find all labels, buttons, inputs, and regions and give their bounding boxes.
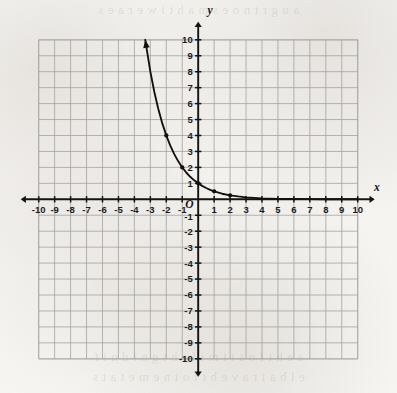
- x-tick-label: 4: [259, 204, 265, 215]
- y-tick-label: -10: [179, 353, 193, 364]
- x-tick-label: 3: [243, 204, 248, 215]
- y-tick-label: -5: [184, 273, 193, 284]
- x-tick-label: 9: [339, 204, 344, 215]
- y-tick-label: 2: [187, 162, 192, 173]
- y-tick-label: 3: [187, 146, 192, 157]
- x-tick-label: -5: [114, 204, 123, 215]
- axis-arrowhead: [195, 372, 202, 377]
- y-tick-label: 10: [182, 34, 193, 45]
- coordinate-plane: -10-9-8-7-6-5-4-3-2-11234567891010987654…: [0, 0, 397, 393]
- x-tick-label: 7: [307, 204, 312, 215]
- plotted-point-dot: [180, 165, 184, 169]
- x-tick-label: 6: [291, 204, 296, 215]
- x-tick-label: -8: [66, 204, 74, 215]
- x-tick-label: 10: [352, 204, 363, 215]
- y-tick-label: -2: [184, 226, 192, 237]
- y-tick-label: -3: [184, 242, 192, 253]
- x-tick-label: 5: [275, 204, 281, 215]
- origin-label: O: [185, 198, 193, 210]
- y-tick-label: 6: [187, 98, 192, 109]
- y-tick-label: 5: [187, 114, 193, 125]
- axis-arrowhead: [370, 196, 375, 203]
- plotted-point-dot: [212, 189, 216, 193]
- y-tick-label: 9: [187, 50, 192, 61]
- y-tick-label: -4: [184, 258, 193, 269]
- plotted-point-dot: [164, 133, 168, 137]
- axis-arrowhead: [21, 196, 26, 203]
- x-tick-label: 1: [212, 204, 218, 215]
- y-tick-label: -6: [184, 289, 192, 300]
- x-tick-label: -9: [50, 204, 58, 215]
- x-tick-label: -2: [162, 204, 170, 215]
- x-tick-label: -10: [32, 204, 46, 215]
- x-tick-label: -3: [146, 204, 154, 215]
- plotted-point-dot: [196, 181, 200, 185]
- y-tick-label: 4: [187, 130, 193, 141]
- y-tick-label: -9: [184, 337, 192, 348]
- y-axis-name: y: [206, 4, 214, 17]
- y-tick-label: -1: [184, 211, 193, 222]
- y-tick-label: 8: [187, 66, 192, 77]
- y-tick-label: -7: [184, 305, 192, 316]
- x-axis-name: x: [373, 181, 380, 193]
- curve-arrowhead: [143, 40, 150, 48]
- x-tick-label: 8: [323, 204, 328, 215]
- x-tick-label: 2: [227, 204, 232, 215]
- x-tick-label: -7: [82, 204, 90, 215]
- plotted-point-dot: [228, 193, 232, 197]
- y-tick-label: 7: [187, 82, 192, 93]
- y-tick-label: -8: [184, 321, 192, 332]
- x-tick-label: -4: [130, 204, 139, 215]
- axis-arrowhead: [195, 22, 202, 27]
- graph-page: a u g r t n o e s m a h t i w e r a e s …: [0, 0, 397, 393]
- x-tick-label: -6: [98, 204, 106, 215]
